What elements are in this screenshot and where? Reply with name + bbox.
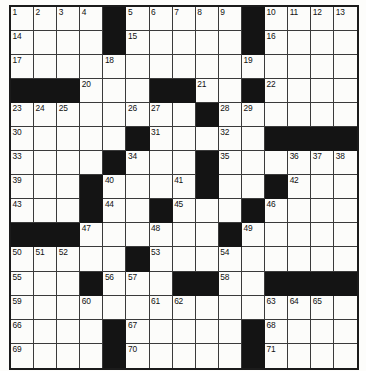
letter-cell[interactable] xyxy=(126,199,149,223)
letter-cell[interactable] xyxy=(34,320,57,344)
letter-cell[interactable] xyxy=(126,223,149,247)
letter-cell[interactable] xyxy=(265,103,288,127)
letter-cell[interactable] xyxy=(126,175,149,199)
letter-cell[interactable]: 64 xyxy=(288,296,311,320)
letter-cell[interactable] xyxy=(150,272,173,296)
letter-cell[interactable] xyxy=(173,247,196,271)
letter-cell[interactable] xyxy=(334,223,357,247)
letter-cell[interactable]: 7 xyxy=(173,7,196,31)
letter-cell[interactable]: 33 xyxy=(11,151,34,175)
letter-cell[interactable] xyxy=(150,344,173,368)
letter-cell[interactable] xyxy=(57,55,80,79)
letter-cell[interactable]: 36 xyxy=(288,151,311,175)
letter-cell[interactable]: 16 xyxy=(265,31,288,55)
letter-cell[interactable]: 4 xyxy=(80,7,103,31)
letter-cell[interactable] xyxy=(126,79,149,103)
letter-cell[interactable]: 35 xyxy=(219,151,242,175)
letter-cell[interactable] xyxy=(288,247,311,271)
letter-cell[interactable]: 26 xyxy=(126,103,149,127)
letter-cell[interactable]: 19 xyxy=(242,55,265,79)
letter-cell[interactable] xyxy=(334,55,357,79)
letter-cell[interactable] xyxy=(34,55,57,79)
letter-cell[interactable]: 10 xyxy=(265,7,288,31)
letter-cell[interactable]: 6 xyxy=(150,7,173,31)
letter-cell[interactable] xyxy=(288,223,311,247)
letter-cell[interactable]: 60 xyxy=(80,296,103,320)
letter-cell[interactable] xyxy=(288,103,311,127)
letter-cell[interactable] xyxy=(288,31,311,55)
letter-cell[interactable] xyxy=(311,31,334,55)
letter-cell[interactable] xyxy=(57,175,80,199)
letter-cell[interactable]: 43 xyxy=(11,199,34,223)
letter-cell[interactable] xyxy=(103,103,126,127)
letter-cell[interactable] xyxy=(196,320,219,344)
letter-cell[interactable] xyxy=(150,55,173,79)
letter-cell[interactable]: 21 xyxy=(196,79,219,103)
letter-cell[interactable]: 9 xyxy=(219,7,242,31)
letter-cell[interactable] xyxy=(34,272,57,296)
letter-cell[interactable] xyxy=(80,55,103,79)
letter-cell[interactable]: 18 xyxy=(103,55,126,79)
letter-cell[interactable]: 51 xyxy=(34,247,57,271)
letter-cell[interactable] xyxy=(219,320,242,344)
letter-cell[interactable] xyxy=(334,247,357,271)
letter-cell[interactable]: 32 xyxy=(219,127,242,151)
letter-cell[interactable] xyxy=(103,127,126,151)
letter-cell[interactable] xyxy=(80,151,103,175)
letter-cell[interactable] xyxy=(150,320,173,344)
letter-cell[interactable]: 24 xyxy=(34,103,57,127)
letter-cell[interactable]: 61 xyxy=(150,296,173,320)
letter-cell[interactable] xyxy=(103,296,126,320)
letter-cell[interactable] xyxy=(103,247,126,271)
letter-cell[interactable]: 39 xyxy=(11,175,34,199)
letter-cell[interactable] xyxy=(57,127,80,151)
letter-cell[interactable] xyxy=(334,320,357,344)
letter-cell[interactable] xyxy=(242,247,265,271)
letter-cell[interactable]: 49 xyxy=(242,223,265,247)
letter-cell[interactable] xyxy=(103,223,126,247)
letter-cell[interactable] xyxy=(219,344,242,368)
letter-cell[interactable]: 15 xyxy=(126,31,149,55)
letter-cell[interactable] xyxy=(334,344,357,368)
letter-cell[interactable] xyxy=(219,79,242,103)
letter-cell[interactable]: 63 xyxy=(265,296,288,320)
letter-cell[interactable] xyxy=(334,103,357,127)
letter-cell[interactable]: 12 xyxy=(311,7,334,31)
letter-cell[interactable]: 23 xyxy=(11,103,34,127)
letter-cell[interactable] xyxy=(311,175,334,199)
letter-cell[interactable] xyxy=(288,55,311,79)
letter-cell[interactable]: 14 xyxy=(11,31,34,55)
letter-cell[interactable] xyxy=(242,151,265,175)
letter-cell[interactable]: 27 xyxy=(150,103,173,127)
letter-cell[interactable]: 44 xyxy=(103,199,126,223)
letter-cell[interactable] xyxy=(34,31,57,55)
letter-cell[interactable] xyxy=(34,344,57,368)
letter-cell[interactable] xyxy=(196,31,219,55)
letter-cell[interactable]: 13 xyxy=(334,7,357,31)
letter-cell[interactable] xyxy=(173,31,196,55)
letter-cell[interactable]: 41 xyxy=(173,175,196,199)
letter-cell[interactable]: 34 xyxy=(126,151,149,175)
letter-cell[interactable] xyxy=(150,151,173,175)
letter-cell[interactable] xyxy=(311,320,334,344)
letter-cell[interactable] xyxy=(34,296,57,320)
letter-cell[interactable] xyxy=(196,223,219,247)
letter-cell[interactable]: 37 xyxy=(311,151,334,175)
letter-cell[interactable] xyxy=(173,127,196,151)
letter-cell[interactable] xyxy=(34,127,57,151)
letter-cell[interactable] xyxy=(311,103,334,127)
letter-cell[interactable]: 71 xyxy=(265,344,288,368)
letter-cell[interactable]: 29 xyxy=(242,103,265,127)
letter-cell[interactable] xyxy=(103,79,126,103)
letter-cell[interactable]: 46 xyxy=(265,199,288,223)
letter-cell[interactable]: 5 xyxy=(126,7,149,31)
letter-cell[interactable]: 59 xyxy=(11,296,34,320)
letter-cell[interactable]: 52 xyxy=(57,247,80,271)
letter-cell[interactable]: 70 xyxy=(126,344,149,368)
letter-cell[interactable]: 62 xyxy=(173,296,196,320)
letter-cell[interactable] xyxy=(80,127,103,151)
letter-cell[interactable] xyxy=(311,55,334,79)
letter-cell[interactable] xyxy=(57,272,80,296)
letter-cell[interactable] xyxy=(242,127,265,151)
letter-cell[interactable]: 1 xyxy=(11,7,34,31)
